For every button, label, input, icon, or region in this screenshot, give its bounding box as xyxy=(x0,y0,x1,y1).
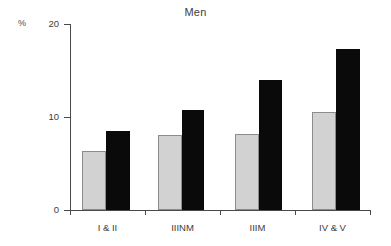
bar-black-0 xyxy=(106,131,130,210)
y-tick-label-20: 20 xyxy=(48,18,64,29)
bar-gray-1 xyxy=(158,135,182,210)
x-tick-mark-2 xyxy=(220,210,221,215)
y-tick-mark-10 xyxy=(64,117,71,118)
x-tick-mark-1 xyxy=(145,210,146,215)
x-axis-label-3: IV & V xyxy=(295,222,370,233)
x-tick-mark-0 xyxy=(70,210,71,215)
bar-black-1 xyxy=(182,110,204,210)
x-axis-label-2: IIIM xyxy=(220,222,295,233)
x-axis-label-1: IIINM xyxy=(145,222,220,233)
y-tick-20: 20 xyxy=(64,24,71,25)
x-tick-mark-4 xyxy=(370,210,371,215)
y-tick-mark-20 xyxy=(64,24,71,25)
y-tick-label-0: 0 xyxy=(54,204,64,215)
bar-black-3 xyxy=(336,49,360,210)
bar-gray-2 xyxy=(235,134,259,210)
bar-chart: Men % 20 10 0 xyxy=(0,0,391,246)
bar-black-2 xyxy=(259,80,282,210)
plot-area: 20 10 0 I & II IIINM IIIM IV & V xyxy=(0,0,391,246)
x-tick-mark-3 xyxy=(295,210,296,215)
bar-gray-3 xyxy=(312,112,336,210)
y-tick-label-10: 10 xyxy=(48,111,64,122)
x-axis-label-0: I & II xyxy=(70,222,145,233)
y-tick-10: 10 xyxy=(64,117,71,118)
bar-gray-0 xyxy=(82,151,106,210)
